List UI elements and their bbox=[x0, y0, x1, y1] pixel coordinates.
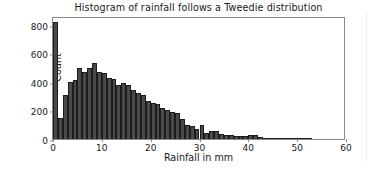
y-tick-label: 200 bbox=[23, 107, 53, 117]
x-axis-label: Rainfall in mm bbox=[52, 152, 345, 163]
y-tick-label: 800 bbox=[23, 22, 53, 32]
y-tick-label: 400 bbox=[23, 79, 53, 89]
plot-area: Count 0200400600800 0102030405060 bbox=[52, 17, 345, 140]
histogram-bar bbox=[307, 138, 312, 139]
histogram-bars bbox=[53, 18, 344, 139]
y-tick-label: 600 bbox=[23, 50, 53, 60]
x-tick-mark bbox=[346, 139, 347, 142]
x-tick-mark bbox=[151, 139, 152, 142]
x-tick-mark bbox=[297, 139, 298, 142]
x-tick-mark bbox=[102, 139, 103, 142]
chart-title: Histogram of rainfall follows a Tweedie … bbox=[52, 2, 345, 13]
figure-canvas: Histogram of rainfall follows a Tweedie … bbox=[0, 0, 371, 177]
x-tick-mark bbox=[200, 139, 201, 142]
x-tick-mark bbox=[248, 139, 249, 142]
x-tick-mark bbox=[53, 139, 54, 142]
figure-edge-artifact bbox=[366, 12, 367, 162]
